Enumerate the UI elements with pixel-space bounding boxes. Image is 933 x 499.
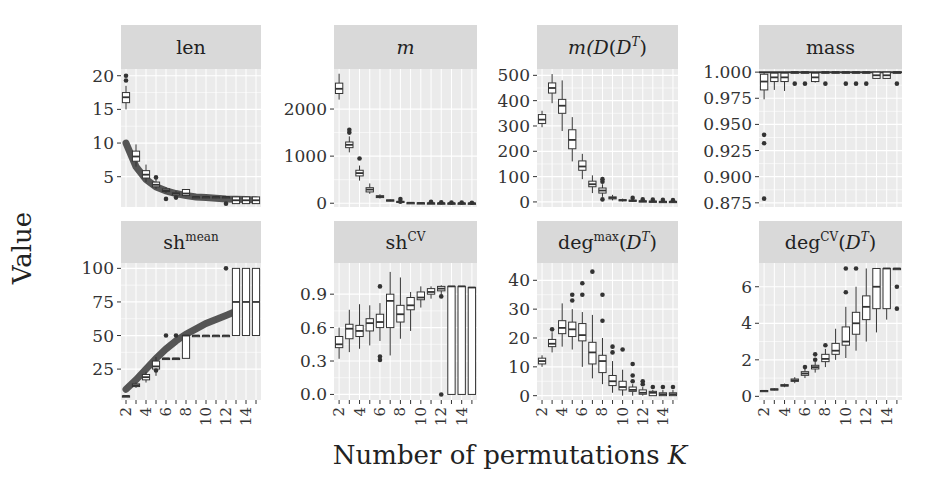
y-tick-label: 0.6 xyxy=(300,318,327,338)
y-tick-label: 0.3 xyxy=(300,351,327,371)
box-k13 xyxy=(232,268,239,335)
box-k7 xyxy=(812,72,819,82)
y-tick-label: 15 xyxy=(92,99,114,119)
box-k13 xyxy=(873,72,880,78)
box-k10 xyxy=(417,203,424,204)
panel-3: mass0.8750.9000.9250.9500.9751.000 xyxy=(703,25,902,213)
y-tick-label: 30 xyxy=(508,299,530,319)
y-tick-label: 50 xyxy=(92,326,114,346)
panel-6: degmax(DT)0102030402468101214 xyxy=(508,221,678,426)
y-tick-label: 40 xyxy=(508,270,530,290)
x-tick-label: 12 xyxy=(217,407,235,426)
y-tick-label: 25 xyxy=(92,359,114,379)
x-tick-label: 10 xyxy=(197,407,215,426)
panel-4: shmean2550751002468101214 xyxy=(82,221,261,426)
x-tick-label: 14 xyxy=(453,407,471,426)
x-tick-label: 6 xyxy=(371,407,389,417)
x-tick-label: 10 xyxy=(412,407,430,426)
x-tick-label: 14 xyxy=(654,407,672,426)
y-tick-label: 4 xyxy=(741,313,752,333)
y-tick-label: 10 xyxy=(92,133,114,153)
x-tick-label: 8 xyxy=(816,407,834,417)
x-axis-label-text: Number of permutations xyxy=(333,440,660,470)
facet-title: len xyxy=(176,36,206,58)
y-tick-label: 0.900 xyxy=(703,167,752,187)
x-tick-label: 14 xyxy=(237,407,255,426)
box-k15 xyxy=(252,197,259,204)
box-k13 xyxy=(232,197,239,204)
box-k10 xyxy=(202,336,209,337)
y-tick-label: 400 xyxy=(498,91,530,111)
y-tick-label: 20 xyxy=(508,328,530,348)
box-k11 xyxy=(212,336,219,337)
box-k7 xyxy=(387,199,394,201)
y-tick-label: 1000 xyxy=(284,146,327,166)
x-axis-label-variable: K xyxy=(668,440,687,470)
x-axis-label: Number of permutations K xyxy=(333,440,687,470)
x-tick-label: 8 xyxy=(593,407,611,417)
x-tick-label: 10 xyxy=(837,407,855,426)
x-tick-label: 6 xyxy=(796,407,814,417)
y-tick-label: 1.000 xyxy=(703,62,752,82)
x-tick-label: 12 xyxy=(432,407,450,426)
box-k15 xyxy=(252,268,259,335)
x-tick-label: 8 xyxy=(177,407,195,417)
y-tick-label: 75 xyxy=(92,292,114,312)
x-tick-label: 8 xyxy=(391,407,409,417)
y-tick-label: 5 xyxy=(103,167,114,187)
box-k11 xyxy=(212,197,219,198)
box-k2 xyxy=(122,396,129,397)
y-tick-label: 100 xyxy=(498,167,530,187)
x-tick-label: 2 xyxy=(755,407,773,417)
x-tick-label: 4 xyxy=(137,407,155,417)
box-k14 xyxy=(458,286,465,394)
box-k14 xyxy=(883,72,890,78)
y-tick-label: 300 xyxy=(498,116,530,136)
y-tick-label: 0 xyxy=(519,386,530,406)
plot-area xyxy=(334,69,477,207)
y-tick-label: 0.925 xyxy=(703,141,752,161)
x-tick-label: 4 xyxy=(776,407,794,417)
y-tick-label: 0 xyxy=(519,192,530,212)
x-tick-label: 4 xyxy=(553,407,571,417)
y-tick-label: 6 xyxy=(741,277,752,297)
facet-title: m xyxy=(396,36,414,58)
panel-1: m010002000 xyxy=(284,25,477,213)
x-tick-label: 6 xyxy=(157,407,175,417)
y-tick-label: 0 xyxy=(741,386,752,406)
facet-title: mass xyxy=(806,36,855,58)
box-k9 xyxy=(832,72,839,73)
y-tick-label: 0.0 xyxy=(300,384,327,404)
y-tick-label: 0.975 xyxy=(703,88,752,108)
y-tick-label: 2000 xyxy=(284,99,327,119)
y-tick-label: 0.9 xyxy=(300,284,327,304)
box-k9 xyxy=(192,336,199,337)
box-k9 xyxy=(192,197,199,198)
box-k8 xyxy=(182,336,189,359)
panel-2: m(D(DT)0100200300400500 xyxy=(498,25,678,212)
box-k3 xyxy=(771,388,778,390)
panel-0: len5101520 xyxy=(92,25,261,207)
y-tick-label: 100 xyxy=(82,258,114,278)
y-tick-label: 0 xyxy=(316,193,327,213)
y-axis-label: Value xyxy=(7,212,37,284)
box-k10 xyxy=(202,197,209,198)
box-k14 xyxy=(242,268,249,335)
panel-7: degCV(DT)02462468101214 xyxy=(741,221,902,426)
box-k14 xyxy=(242,197,249,204)
box-k13 xyxy=(448,286,455,394)
x-tick-label: 4 xyxy=(351,407,369,417)
y-tick-label: 2 xyxy=(741,350,752,370)
plot-area xyxy=(537,69,678,207)
x-tick-label: 14 xyxy=(878,407,896,426)
plot-area xyxy=(121,69,261,207)
x-tick-label: 12 xyxy=(857,407,875,426)
box-k2 xyxy=(760,390,767,392)
y-tick-label: 200 xyxy=(498,141,530,161)
panel-5: shCV0.00.30.60.92468101214 xyxy=(300,221,477,426)
facet-box-plot-figure: len5101520m010002000m(D(DT)0100200300400… xyxy=(0,0,933,499)
box-k15 xyxy=(468,288,475,395)
y-tick-label: 10 xyxy=(508,357,530,377)
y-tick-label: 500 xyxy=(498,65,530,85)
box-k8 xyxy=(182,189,189,196)
